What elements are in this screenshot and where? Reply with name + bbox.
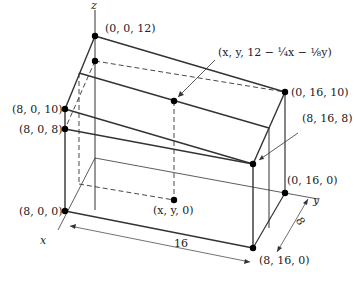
label-0-0-12: (0, 0, 12) <box>105 22 156 35</box>
label-surface-point: (x, y, 12 − ¼x − ⅛y) <box>218 46 332 59</box>
box-diagram: z x y (0, 0, 12) (8, 0, 10) (8, 0, 8) (8… <box>0 0 355 282</box>
label-8-0-10: (8, 0, 10) <box>12 103 63 116</box>
x-axis <box>58 158 95 230</box>
label-8-0-8: (8, 0, 8) <box>19 123 63 136</box>
dimension-length-label: 16 <box>174 237 188 250</box>
z-axis-label: z <box>90 0 97 12</box>
label-8-16-8: (8, 16, 8) <box>302 112 353 125</box>
label-8-0-0: (8, 0, 0) <box>19 205 63 218</box>
label-0-16-10: (0, 16, 10) <box>291 86 349 99</box>
label-x-y-0: (x, y, 0) <box>153 204 194 217</box>
label-8-16-0: (8, 16, 0) <box>259 254 310 267</box>
label-0-16-0: (0, 16, 0) <box>287 174 338 187</box>
y-axis-label: y <box>312 194 320 207</box>
x-axis-label: x <box>40 234 47 247</box>
dimension-width-label: 8 <box>293 215 308 228</box>
